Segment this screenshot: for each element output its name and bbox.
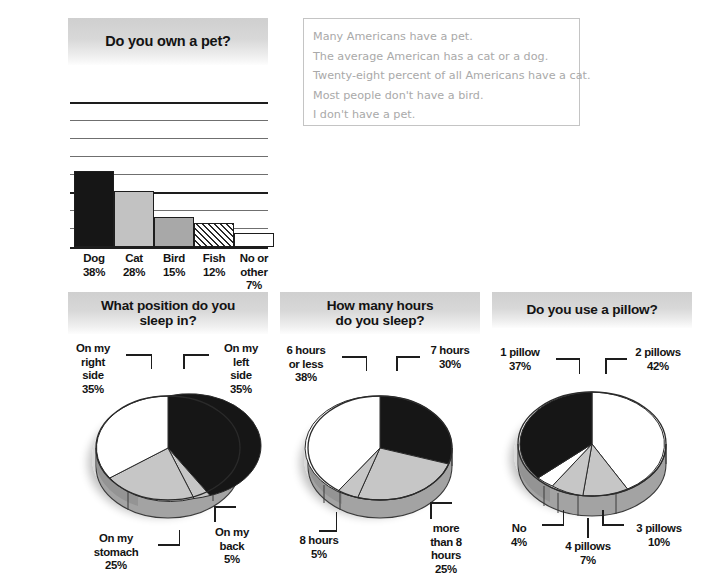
gridline [70, 138, 268, 139]
pie3-one-pct: 37% [484, 360, 556, 374]
pie3-label-four-pillows: 4 pillows 7% [550, 540, 626, 567]
pie1-right-side-pct: 35% [62, 383, 124, 397]
bar-label-dog-name: Dog [74, 252, 114, 266]
bar-label-dog-pct: 38% [74, 266, 114, 280]
pie2-more-pct: 25% [412, 563, 480, 577]
pie1-back-l1: On my [202, 526, 262, 540]
pie3-two-l1: 2 pillows [622, 346, 694, 360]
pie1-title: What position do you sleep in? [68, 292, 268, 334]
pie1-title-line2: sleep in? [101, 313, 235, 328]
pie2-title-line2: do you sleep? [327, 313, 434, 328]
bar-no-or-other [234, 233, 274, 247]
bar-label-no-or-other: No or other 7% [232, 252, 276, 293]
pie3-title: Do you use a pillow? [492, 292, 692, 328]
pie3-stage: 1 pillow 37% 2 pillows 42% No 4% 4 pillo… [492, 336, 692, 568]
pie1-stomach-l1: On my [78, 532, 154, 546]
pie1-left-side-l2: left [211, 356, 271, 370]
pie1-left-side-pct: 35% [211, 383, 271, 397]
bar-dog [74, 171, 114, 247]
pie1-back-pct: 5% [202, 553, 262, 567]
bar-label-bird-name: Bird [154, 252, 194, 266]
sentence-line: Twenty-eight percent of all Americans ha… [313, 66, 570, 86]
pie2-label-seven: 7 hours 30% [419, 344, 481, 371]
bar-label-dog: Dog 38% [74, 252, 114, 279]
pie1-stomach-l2: stomach [78, 546, 154, 560]
pie1-left-side-l1: On my [211, 342, 271, 356]
pie3-four-pct: 7% [550, 554, 626, 568]
bar-chart-baseline [70, 247, 268, 249]
pie1-right-side-l1: On my [62, 342, 124, 356]
pie3-two-pct: 42% [622, 360, 694, 374]
pie2-six-pct: 38% [270, 371, 342, 385]
pie2-label-eight: 8 hours 5% [284, 534, 354, 561]
pie2-six-l2: or less [270, 358, 342, 372]
pie2-more-l2: than 8 [412, 536, 480, 550]
bar-label-bird-pct: 15% [154, 266, 194, 280]
pie2-title: How many hours do you sleep? [280, 292, 480, 334]
pie2-eight-pct: 5% [284, 548, 354, 562]
pie1-stomach-pct: 25% [78, 559, 154, 573]
pie1-right-side-l3: side [62, 369, 124, 383]
pie2-stage: 6 hours or less 38% 7 hours 30% 8 hours … [280, 336, 480, 568]
bar-label-no-or-other-name2: other [232, 266, 276, 280]
gridline [70, 120, 268, 121]
pillow-use-pie-chart: Do you use a pillow? [492, 292, 692, 568]
bar-cat [114, 191, 154, 247]
bar-fish [194, 223, 234, 247]
pie3-one-l1: 1 pillow [484, 346, 556, 360]
pie1-label-back: On my back 5% [202, 526, 262, 567]
pie1-stage: On my right side 35% On my left side 35%… [68, 336, 268, 568]
pie2-more-l3: hours [412, 549, 480, 563]
pie2-title-line1: How many hours [327, 298, 434, 313]
pie3-no-l1: No [498, 522, 540, 536]
sentence-list-box: Many Americans have a pet. The average A… [303, 18, 580, 126]
pie2-six-l1: 6 hours [270, 344, 342, 358]
sleep-position-pie-chart: What position do you sleep in? [68, 292, 268, 568]
pie3-three-l1: 3 pillows [622, 522, 696, 536]
pie3-label-three-pillows: 3 pillows 10% [622, 522, 696, 549]
gridline [70, 102, 268, 104]
bar-bird [154, 217, 194, 247]
pie1-label-stomach: On my stomach 25% [78, 532, 154, 573]
pet-ownership-bar-chart: Do you own a pet? Dog 38% Cat 28% Bird 1… [68, 18, 268, 280]
sentence-line: Most people don't have a bird. [313, 86, 570, 106]
pie2-seven-pct: 30% [419, 358, 481, 372]
pie2-seven-l1: 7 hours [419, 344, 481, 358]
sleep-hours-pie-chart: How many hours do you sleep? [280, 292, 480, 568]
gridline [70, 156, 268, 157]
sentence-line: I don't have a pet. [313, 105, 570, 125]
bar-label-bird: Bird 15% [154, 252, 194, 279]
pie1-back-l2: back [202, 540, 262, 554]
bar-label-fish-pct: 12% [194, 266, 234, 280]
pie3-four-l1: 4 pillows [550, 540, 626, 554]
pie3-three-pct: 10% [622, 536, 696, 550]
pie2-eight-l1: 8 hours [284, 534, 354, 548]
bar-label-fish: Fish 12% [194, 252, 234, 279]
bar-chart-title: Do you own a pet? [68, 18, 268, 65]
bar-label-no-or-other-name1: No or [232, 252, 276, 266]
pie2-label-six-or-less: 6 hours or less 38% [270, 344, 342, 385]
bar-label-fish-name: Fish [194, 252, 234, 266]
pie1-right-side-l2: right [62, 356, 124, 370]
bar-label-cat-name: Cat [114, 252, 154, 266]
pie2-label-more-than-8: more than 8 hours 25% [412, 522, 480, 577]
sentence-line: Many Americans have a pet. [313, 27, 570, 47]
bar-label-no-or-other-pct: 7% [232, 279, 276, 293]
pie1-label-right-side: On my right side 35% [62, 342, 124, 397]
pie3-label-one-pillow: 1 pillow 37% [484, 346, 556, 373]
pie3-label-no: No 4% [498, 522, 540, 549]
sentence-line: The average American has a cat or a dog. [313, 47, 570, 67]
pie3-no-pct: 4% [498, 536, 540, 550]
bar-label-cat: Cat 28% [114, 252, 154, 279]
pie3-label-two-pillows: 2 pillows 42% [622, 346, 694, 373]
pie1-label-left-side: On my left side 35% [211, 342, 271, 397]
bar-label-cat-pct: 28% [114, 266, 154, 280]
pie1-left-side-l3: side [211, 369, 271, 383]
pie3-title-line1: Do you use a pillow? [526, 302, 657, 317]
bar-chart-plot-area [70, 102, 268, 248]
pie2-more-l1: more [412, 522, 480, 536]
pie1-title-line1: What position do you [101, 298, 235, 313]
